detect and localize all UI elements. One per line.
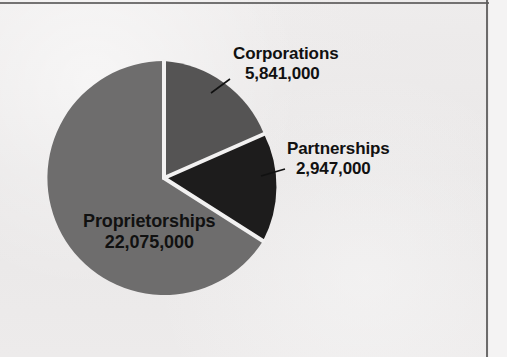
slice-label-partnerships-value: 2,947,000	[296, 159, 390, 179]
slice-label-corporations: Corporations 5,841,000	[233, 44, 339, 83]
slice-label-corporations-name: Corporations	[233, 44, 339, 64]
slice-label-partnerships-name: Partnerships	[287, 139, 390, 159]
slice-label-partnerships: Partnerships 2,947,000	[287, 139, 390, 178]
page-right-margin	[489, 0, 507, 357]
slice-label-proprietorships: Proprietorships 22,075,000	[83, 211, 216, 253]
slice-label-proprietorships-value: 22,075,000	[83, 232, 216, 253]
slice-label-corporations-value: 5,841,000	[245, 64, 339, 84]
scanned-page: Corporations 5,841,000 Partnerships 2,94…	[0, 0, 507, 357]
slice-label-proprietorships-name: Proprietorships	[83, 211, 216, 232]
pie-chart: Corporations 5,841,000 Partnerships 2,94…	[0, 0, 489, 357]
